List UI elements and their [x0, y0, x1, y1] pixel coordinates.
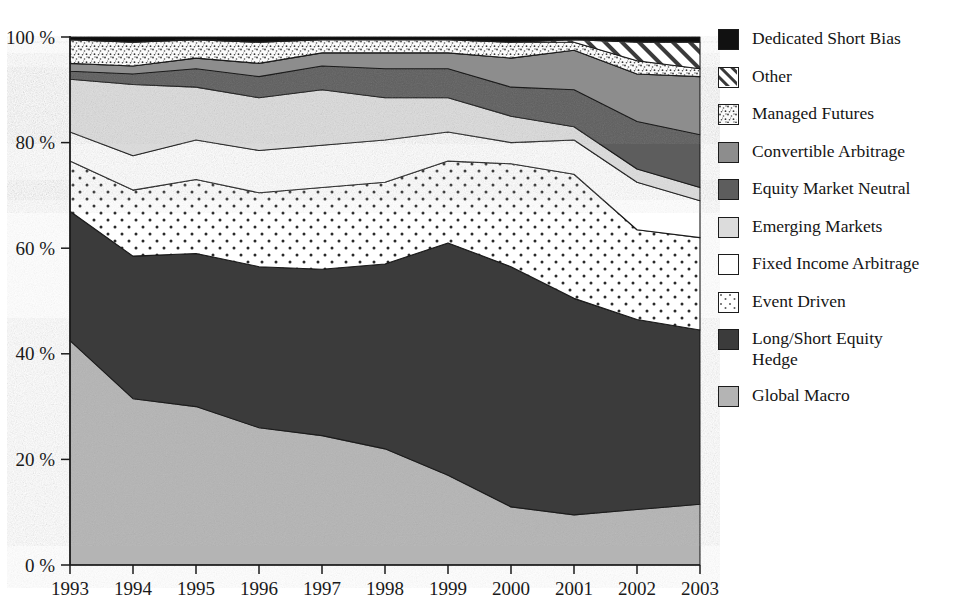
legend-item-label: Equity Market Neutral	[752, 178, 910, 199]
legend-item[interactable]: Convertible Arbitrage	[718, 141, 956, 163]
legend-item[interactable]: Equity Market Neutral	[718, 178, 956, 200]
legend-item[interactable]: Managed Futures	[718, 103, 956, 125]
y-axis-tick-label: 80 %	[15, 132, 55, 153]
x-axis-tick-label: 1999	[429, 578, 467, 599]
legend-item[interactable]: Dedicated Short Bias	[718, 28, 956, 50]
x-axis-tick-label: 1997	[303, 578, 341, 599]
legend-item-label: Convertible Arbitrage	[752, 141, 905, 162]
legend-swatch-icon	[718, 254, 739, 275]
legend-item[interactable]: Global Macro	[718, 385, 956, 407]
x-axis-tick-label: 2002	[618, 578, 656, 599]
legend-swatch-icon	[718, 104, 739, 125]
legend-swatch-icon	[718, 67, 739, 88]
legend-item-label: Dedicated Short Bias	[752, 28, 901, 49]
legend-item[interactable]: Emerging Markets	[718, 216, 956, 238]
legend-item[interactable]: Long/Short Equity Hedge	[718, 328, 956, 369]
y-axis-tick-label: 0 %	[25, 555, 55, 576]
legend-item-label: Managed Futures	[752, 103, 874, 124]
x-axis-ticks: 1993199419951996199719981999200020012002…	[51, 565, 719, 599]
y-axis-tick-label: 40 %	[15, 343, 55, 364]
legend-swatch-icon	[718, 142, 739, 163]
legend-swatch-icon	[718, 292, 739, 313]
legend-swatch-icon	[718, 29, 739, 50]
legend-item-label: Event Driven	[752, 291, 846, 312]
chart-page: 100 %80 %60 %40 %20 %0 % 199319941995199…	[0, 0, 960, 610]
chart-legend: Dedicated Short BiasOtherManaged Futures…	[718, 28, 956, 422]
legend-item-label: Long/Short Equity Hedge	[752, 328, 883, 369]
legend-swatch-icon	[718, 217, 739, 238]
y-axis-ticks: 100 %80 %60 %40 %20 %0 %	[6, 27, 70, 576]
x-axis-tick-label: 1994	[114, 578, 153, 599]
legend-item[interactable]: Other	[718, 66, 956, 88]
x-axis-tick-label: 2003	[681, 578, 719, 599]
y-axis-tick-label: 60 %	[15, 238, 55, 259]
legend-item-label: Global Macro	[752, 385, 850, 406]
y-axis-tick-label: 20 %	[15, 449, 55, 470]
legend-swatch-icon	[718, 179, 739, 200]
y-axis-tick-label: 100 %	[6, 27, 55, 48]
legend-item[interactable]: Event Driven	[718, 291, 956, 313]
chart-areas	[70, 37, 700, 565]
legend-item-label: Emerging Markets	[752, 216, 882, 237]
x-axis-tick-label: 1995	[177, 578, 215, 599]
legend-item-label: Fixed Income Arbitrage	[752, 253, 919, 274]
x-axis-tick-label: 1993	[51, 578, 89, 599]
legend-item-label: Other	[752, 66, 792, 87]
legend-swatch-icon	[718, 329, 739, 350]
stacked-area-chart: 100 %80 %60 %40 %20 %0 % 199319941995199…	[0, 0, 720, 610]
x-axis-tick-label: 1996	[240, 578, 278, 599]
x-axis-tick-label: 2000	[492, 578, 530, 599]
legend-swatch-icon	[718, 386, 739, 407]
legend-item[interactable]: Fixed Income Arbitrage	[718, 253, 956, 275]
x-axis-tick-label: 1998	[366, 578, 404, 599]
x-axis-tick-label: 2001	[555, 578, 593, 599]
